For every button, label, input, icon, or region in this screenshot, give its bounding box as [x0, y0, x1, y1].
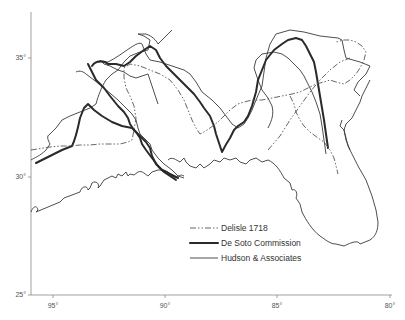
route-map: 35° 30° 25° 95° 90° 85° 80° Delisle 1718…: [0, 0, 405, 320]
legend-label-delisle: Delisle 1718: [221, 223, 268, 233]
x-tick-label: 90°: [160, 302, 171, 309]
delisle-route: [290, 96, 338, 174]
delisle-route: [268, 58, 350, 150]
legend-label-hudson: Hudson & Associates: [221, 253, 301, 263]
florida-outline: [268, 80, 378, 246]
legend-label-desoto: De Soto Commission: [221, 238, 301, 248]
x-tick-label: 80°: [385, 302, 396, 309]
x-tick-label: 85°: [272, 302, 283, 309]
desoto-route: [88, 64, 178, 178]
desoto-route: [92, 38, 328, 152]
delisle-route: [31, 40, 366, 150]
y-tick-label: 30°: [15, 173, 26, 180]
x-tick-label: 95°: [48, 302, 59, 309]
desoto-route: [36, 104, 176, 180]
legend: Delisle 1718 De Soto Commission Hudson &…: [190, 223, 301, 263]
map-axes: 35° 30° 25° 95° 90° 85° 80°: [15, 12, 395, 309]
coastline: [168, 158, 268, 168]
y-tick-label: 35°: [15, 54, 26, 61]
coastline: [31, 170, 184, 212]
hudson-route: [100, 60, 158, 104]
y-tick-label: 25°: [15, 291, 26, 298]
